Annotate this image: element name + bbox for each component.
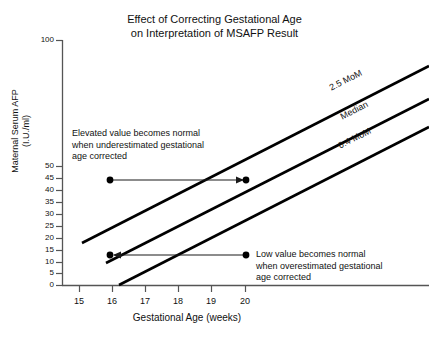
- elevated-annotation-line-1: Elevated value becomes normal: [72, 128, 204, 140]
- chart-figure: Effect of Correcting Gestational Age on …: [0, 0, 429, 340]
- low-value-corrected-point: [107, 252, 114, 259]
- elevated-arrow: [107, 177, 250, 184]
- elevated-annotation-line-3: age corrected: [72, 151, 204, 163]
- plot-canvas: [0, 0, 429, 340]
- elevated-annotation-line-2: when underestimated gestational: [72, 140, 204, 152]
- line-median: [106, 99, 429, 263]
- low-annotation-line-2: when overestimated gestational: [256, 261, 383, 273]
- elevated-annotation: Elevated value becomes normal when under…: [72, 128, 204, 163]
- elevated-value-corrected-point: [243, 177, 250, 184]
- low-value-point: [243, 252, 250, 259]
- low-annotation: Low value becomes normal when overestima…: [256, 249, 383, 284]
- low-annotation-line-3: age corrected: [256, 272, 383, 284]
- low-annotation-line-1: Low value becomes normal: [256, 249, 383, 261]
- elevated-value-point: [107, 177, 114, 184]
